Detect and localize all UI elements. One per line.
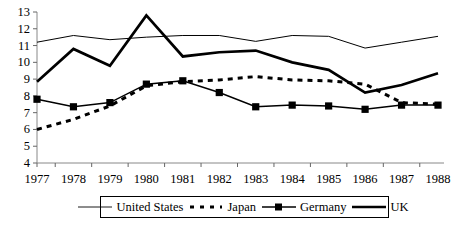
y-tick-label: 5 [24,139,30,154]
x-tick-label: 1987 [389,172,414,187]
y-tick-label: 8 [24,88,30,103]
series-marker-germany [252,103,259,110]
series-marker-germany [70,103,77,110]
series-marker-germany [289,102,296,109]
y-tick-label: 11 [18,38,30,53]
chart-legend: United States Japan Germany UK [100,196,389,218]
legend-label-japan: Japan [224,200,258,215]
chart-container: 45678910111213 1977197819791980198119821… [0,0,458,229]
x-tick-label: 1986 [353,172,378,187]
series-layer [33,15,441,129]
series-line-japan [37,77,438,130]
x-tick-label: 1981 [170,172,195,187]
series-marker-germany [434,102,441,109]
thin-line-swatch [77,201,113,213]
x-tick-label: 1985 [316,172,341,187]
y-tick-label: 7 [24,105,30,120]
legend-item-united-states: United States [77,200,186,215]
y-tick-label: 13 [18,5,31,20]
series-line-uk [37,15,438,92]
x-tick-label: 1977 [25,172,50,187]
series-marker-germany [33,96,40,103]
x-tick-label: 1982 [207,172,232,187]
series-line-germany [37,81,438,110]
legend-item-japan: Japan [188,200,258,215]
series-marker-germany [398,102,405,109]
thick-line-swatch [351,201,387,213]
series-marker-germany [106,99,113,106]
y-tick-label: 10 [18,55,31,70]
y-tick-label: 12 [18,21,31,36]
series-marker-germany [325,102,332,109]
y-tick-label: 6 [24,122,30,137]
x-tick-label: 1979 [97,172,122,187]
legend-label-united-states: United States [113,200,186,215]
line-chart-plot [0,0,458,229]
y-tick-label: 4 [24,156,30,171]
square-marker-line-swatch [261,201,297,213]
series-marker-germany [361,106,368,113]
series-marker-germany [143,81,150,88]
legend-item-germany: Germany [261,200,350,215]
dashed-line-swatch [188,201,224,213]
series-marker-germany [179,77,186,84]
x-tick-label: 1978 [61,172,86,187]
x-tick-label: 1983 [243,172,268,187]
series-marker-germany [216,89,223,96]
x-tick-label: 1980 [134,172,159,187]
legend-label-uk: UK [387,200,411,215]
legend-item-uk: UK [351,200,411,215]
legend-label-germany: Germany [297,200,350,215]
x-tick-label: 1988 [426,172,451,187]
y-tick-label: 9 [24,72,30,87]
x-tick-label: 1984 [280,172,305,187]
series-line-united-states [37,35,438,48]
